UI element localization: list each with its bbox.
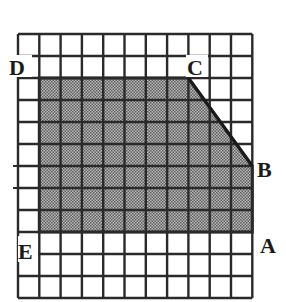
grid-lines bbox=[18, 34, 252, 298]
label-d: D bbox=[9, 55, 25, 80]
label-b: B bbox=[257, 157, 272, 182]
label-c: C bbox=[187, 55, 203, 80]
label-e: E bbox=[18, 239, 33, 264]
label-a: A bbox=[260, 233, 276, 258]
grid-diagram: D C B A E bbox=[0, 0, 286, 302]
